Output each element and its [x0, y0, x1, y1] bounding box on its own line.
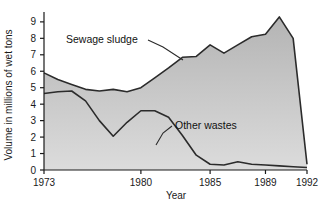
y-tick-label: 9 [30, 16, 36, 27]
x-axis-title: Year [166, 190, 187, 201]
y-tick-label: 3 [30, 115, 36, 126]
y-tick-label: 7 [30, 49, 36, 60]
y-tick-label: 4 [30, 99, 36, 110]
chart-plot: 0123456789 19731980198519891992 Year Vol… [0, 0, 328, 210]
y-tick-label: 0 [30, 165, 36, 176]
series-annotation-label: Other wastes [175, 119, 237, 131]
series-annotation-label: Sewage sludge [66, 33, 138, 45]
y-tick-label: 5 [30, 82, 36, 93]
y-axis-title: Volume in millions of wet tons [3, 29, 14, 160]
y-tick-label: 1 [30, 148, 36, 159]
chart-figure: 0123456789 19731980198519891992 Year Vol… [0, 0, 328, 210]
x-tick-label: 1992 [296, 177, 319, 188]
y-tick-label: 8 [30, 33, 36, 44]
x-tick-label: 1980 [130, 177, 153, 188]
x-tick-label: 1973 [33, 177, 56, 188]
x-tick-label: 1989 [254, 177, 277, 188]
x-tick-label: 1985 [199, 177, 222, 188]
y-tick-label: 6 [30, 66, 36, 77]
y-tick-label: 2 [30, 132, 36, 143]
